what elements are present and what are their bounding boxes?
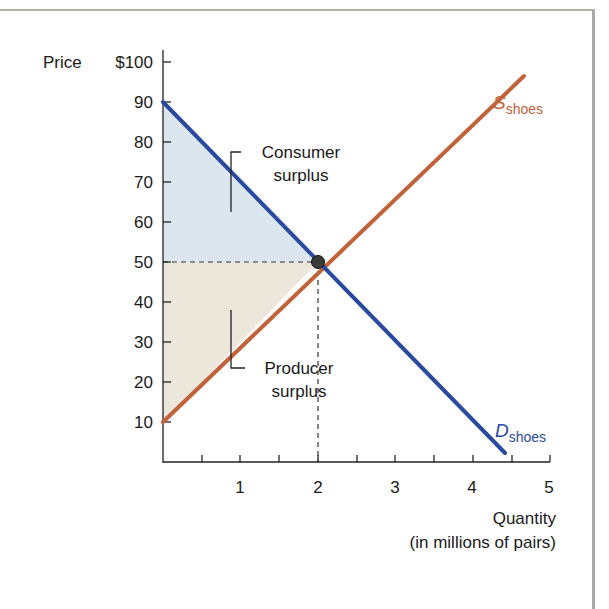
svg-text:30: 30: [134, 333, 153, 352]
svg-text:80: 80: [134, 133, 153, 152]
svg-text:2: 2: [313, 478, 322, 497]
svg-text:1: 1: [235, 478, 244, 497]
svg-text:$100: $100: [115, 53, 153, 72]
svg-text:90: 90: [134, 93, 153, 112]
svg-text:5: 5: [544, 478, 553, 497]
x-axis-title-line1: Quantity: [493, 509, 557, 528]
demand-label: Dshoes: [495, 420, 546, 445]
equilibrium-point: [312, 256, 325, 269]
svg-text:3: 3: [390, 478, 399, 497]
svg-text:70: 70: [134, 173, 153, 192]
producer-surplus-label-line2: surplus: [272, 382, 327, 401]
consumer-surplus-label-line1: Consumer: [262, 143, 341, 162]
x-tick-labels: 1 2 3 4 5: [235, 478, 553, 497]
svg-text:10: 10: [134, 413, 153, 432]
svg-text:60: 60: [134, 213, 153, 232]
supply-label: Sshoes: [493, 92, 543, 117]
svg-text:4: 4: [467, 478, 476, 497]
svg-text:40: 40: [134, 293, 153, 312]
x-axis-title-line2: (in millions of pairs): [410, 533, 556, 552]
consumer-surplus-label-line2: surplus: [274, 166, 329, 185]
y-tick-labels: Price $100 90 80 70 60 50 40 30 20 10: [43, 53, 153, 432]
svg-text:50: 50: [134, 253, 153, 272]
producer-surplus-label-line1: Producer: [265, 359, 334, 378]
y-axis-title: Price: [43, 53, 82, 72]
svg-text:20: 20: [134, 373, 153, 392]
x-ticks: [202, 455, 550, 462]
